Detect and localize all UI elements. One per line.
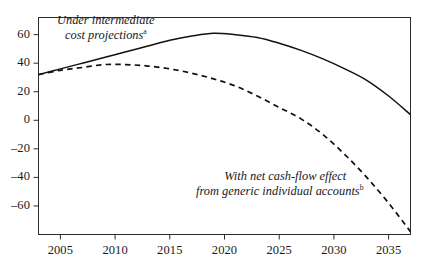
series-line-2 xyxy=(39,64,411,231)
y-tick-label: –40 xyxy=(4,169,30,184)
y-tick-label: –20 xyxy=(4,141,30,156)
annotation-solid-line-2: cost projectionsa xyxy=(57,28,154,43)
y-axis-ticks xyxy=(34,35,39,206)
annotation-solid-line-1: Under intermediate xyxy=(57,13,154,28)
x-tick-label: 2010 xyxy=(93,243,137,258)
y-tick-label: –60 xyxy=(4,198,30,213)
x-tick-label: 2035 xyxy=(367,243,411,258)
chart-figure: 6040200–20–40–60 20052010201520202025203… xyxy=(0,0,422,269)
x-axis-ticks xyxy=(60,235,388,240)
footnote-marker-a: a xyxy=(143,26,146,35)
x-tick-label: 2005 xyxy=(38,243,82,258)
footnote-marker-b: b xyxy=(360,182,364,191)
series-line-1 xyxy=(39,33,411,114)
x-tick-label: 2025 xyxy=(257,243,301,258)
data-series-group xyxy=(39,33,411,231)
y-tick-label: 0 xyxy=(4,112,30,127)
annotation-solid-curve: Under intermediate cost projectionsa xyxy=(57,13,154,42)
y-tick-label: 40 xyxy=(4,55,30,70)
annotation-dashed-curve: With net cash-flow effect from generic i… xyxy=(196,169,363,198)
y-tick-label: 20 xyxy=(4,84,30,99)
annotation-dashed-line-1: With net cash-flow effect xyxy=(196,169,363,184)
annotation-dashed-line-2: from generic individual accountsb xyxy=(196,184,363,199)
y-tick-label: 60 xyxy=(4,27,30,42)
plot-area-border xyxy=(39,18,411,235)
x-tick-label: 2030 xyxy=(312,243,356,258)
x-tick-label: 2020 xyxy=(203,243,247,258)
x-tick-label: 2015 xyxy=(148,243,192,258)
